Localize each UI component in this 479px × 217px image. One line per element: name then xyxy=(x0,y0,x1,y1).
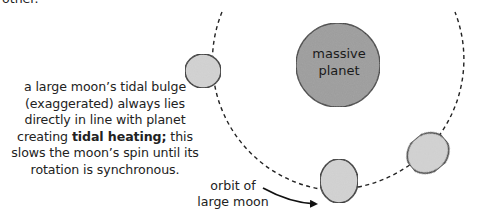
tidal-bulge-caption: a large moon’s tidal bulge (exaggerated)… xyxy=(0,79,210,179)
orbit-label-line1: orbit of xyxy=(188,178,278,194)
orbit-path-left xyxy=(212,12,320,189)
caption-line: slows the moon’s spin until its xyxy=(0,145,210,162)
orbit-label: orbit of large moon xyxy=(188,178,278,210)
planet-label: massive planet xyxy=(296,45,382,79)
caption-text: this xyxy=(166,129,192,144)
caption-line: directly in line with planet xyxy=(0,112,210,129)
caption-line: (exaggerated) always lies xyxy=(0,96,210,113)
tidal-heating-term: tidal heating; xyxy=(72,129,167,144)
bottom-moon xyxy=(320,159,358,203)
planet-label-line1: massive xyxy=(296,45,382,62)
cutoff-heading-text: other. xyxy=(2,0,38,6)
caption-text: creating xyxy=(17,129,72,144)
caption-line: creating tidal heating; this xyxy=(0,129,210,146)
planet-label-line2: planet xyxy=(296,62,382,79)
caption-line: rotation is synchronous. xyxy=(0,162,210,179)
caption-line: a large moon’s tidal bulge xyxy=(0,79,210,96)
right-moon xyxy=(399,124,457,181)
orbit-label-line2: large moon xyxy=(188,194,278,210)
